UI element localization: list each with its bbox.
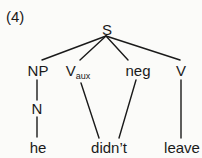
node-vaux-base: V: [66, 62, 76, 79]
node-np: NP: [28, 63, 49, 78]
leaf-leave: leave: [164, 140, 200, 155]
node-vaux: Vaux: [66, 63, 91, 84]
node-v: V: [176, 63, 186, 78]
leaf-he: he: [30, 140, 47, 155]
node-vaux-subscript: aux: [76, 71, 91, 81]
edge-s-np: [42, 36, 106, 60]
node-n: N: [32, 101, 43, 116]
edge-vaux-didnt: [81, 83, 99, 138]
edge-s-vaux: [80, 36, 106, 60]
leaf-didnt: didn’t: [91, 140, 127, 155]
node-neg: neg: [125, 63, 150, 78]
node-s: S: [102, 22, 112, 37]
edge-neg-didnt: [119, 80, 136, 138]
